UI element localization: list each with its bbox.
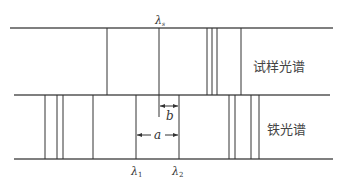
b-label: b	[166, 109, 174, 123]
b-dimension-arrow	[160, 104, 178, 108]
sample-spectrum-label: 试样光谱	[253, 59, 305, 74]
a-label: a	[154, 128, 161, 142]
lambda-2-label: λ2	[171, 165, 183, 179]
iron-spectrum-label: 铁光谱	[267, 122, 306, 137]
lambda-s-label: λs	[154, 14, 165, 27]
lambda-1-label: λ1	[130, 165, 142, 179]
spectrum-comparison-diagram: b a λs λ1 λ2 试样光谱 铁光谱	[0, 0, 341, 186]
sample-spectrum-lines	[107, 28, 241, 117]
iron-spectrum-lines	[45, 95, 259, 159]
